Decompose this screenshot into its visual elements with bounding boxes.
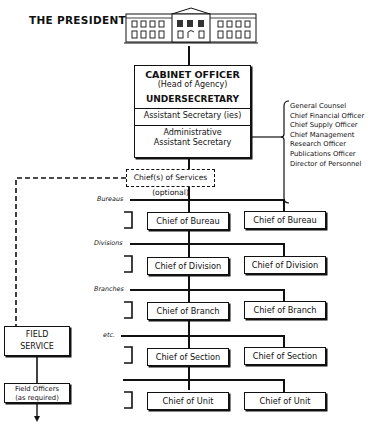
staff-offices-list: General Counsel Chief Financial Officer … — [290, 102, 364, 169]
chief-of-unit-box: Chief of Unit — [244, 392, 326, 410]
head-of-agency-label: (Head of Agency) — [135, 80, 250, 90]
staff-office-item: Chief Supply Officer — [290, 121, 364, 131]
staff-office-item: Research Officer — [290, 140, 364, 150]
level-label-etc: etc. — [103, 331, 115, 339]
assistant-secretary-label: Assistant Secretary (ies) — [135, 109, 250, 122]
chief-of-division-box: Chief of Division — [244, 256, 326, 274]
admin-line-2: Assistant Secretary — [135, 138, 250, 148]
white-house-icon — [124, 6, 258, 46]
cabinet-officer-box: CABINET OFFICER (Head of Agency) UNDERSE… — [134, 65, 251, 158]
level-label-divisions: Divisions — [94, 239, 123, 247]
president-label: THE PRESIDENT — [29, 14, 126, 26]
undersecretary-label: UNDERSECRETARY — [135, 93, 250, 105]
field-officers-box: Field Officers (as required) — [4, 383, 70, 403]
field-officers-line-1: Field Officers — [5, 385, 69, 394]
admin-assistant-secretary-label: Administrative Assistant Secretary — [135, 126, 250, 148]
staff-office-item: General Counsel — [290, 102, 364, 112]
chief-of-bureau-box: Chief of Bureau — [244, 211, 326, 229]
admin-line-1: Administrative — [135, 128, 250, 138]
cabinet-officer-title: CABINET OFFICER — [135, 69, 250, 80]
staff-office-item: Publications Officer — [290, 150, 364, 160]
field-service-line-1: FIELD — [5, 329, 69, 341]
staff-office-item: Director of Personnel — [290, 160, 364, 170]
field-service-line-2: SERVICE — [5, 341, 69, 353]
chief-of-unit-box: Chief of Unit — [147, 392, 229, 410]
chief-of-branch-box: Chief of Branch — [147, 302, 229, 320]
chief-of-services-box: Chief(s) of Services (optional) — [126, 169, 215, 187]
chief-of-section-box: Chief of Section — [244, 347, 326, 365]
chief-of-section-box: Chief of Section — [147, 348, 229, 366]
chief-of-division-box: Chief of Division — [147, 257, 229, 275]
level-label-bureaus: Bureaus — [97, 195, 123, 203]
chief-of-bureau-box: Chief of Bureau — [147, 212, 229, 230]
field-service-box: FIELD SERVICE — [4, 326, 70, 356]
field-officers-line-2: (as required) — [5, 394, 69, 403]
level-label-branches: Branches — [94, 285, 124, 293]
staff-office-item: Chief Financial Officer — [290, 112, 364, 122]
chief-of-branch-box: Chief of Branch — [244, 301, 326, 319]
staff-office-item: Chief Management — [290, 131, 364, 141]
